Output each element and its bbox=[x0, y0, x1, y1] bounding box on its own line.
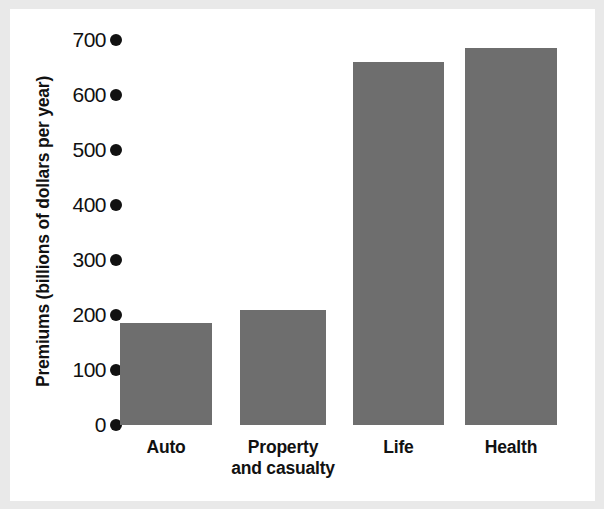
bar-life bbox=[353, 62, 444, 425]
y-axis-tick-label: 100 bbox=[36, 358, 106, 382]
plot-area: 0100200300400500600700AutoPropertyand ca… bbox=[10, 9, 595, 501]
y-axis-tick-dot-icon bbox=[110, 89, 122, 101]
y-axis-tick-dot-icon bbox=[110, 309, 122, 321]
y-axis-tick-label: 600 bbox=[36, 83, 106, 107]
y-axis-tick-dot-icon bbox=[110, 254, 122, 266]
bar-auto bbox=[120, 323, 212, 425]
y-axis-tick-dot-icon bbox=[110, 144, 122, 156]
bar-property-and-casualty bbox=[240, 310, 326, 426]
figure-root: Premiums (billions of dollars per year) … bbox=[0, 0, 604, 509]
x-axis-label-line: and casualty bbox=[200, 458, 366, 479]
x-axis-label-line: Health bbox=[425, 437, 597, 458]
chart-card: Premiums (billions of dollars per year) … bbox=[10, 9, 595, 501]
y-axis-tick-dot-icon bbox=[110, 34, 122, 46]
y-axis-tick-label: 400 bbox=[36, 193, 106, 217]
bar-health bbox=[465, 48, 557, 425]
x-axis-label-health: Health bbox=[425, 437, 597, 458]
y-axis-tick-label: 700 bbox=[36, 28, 106, 52]
y-axis-tick-dot-icon bbox=[110, 199, 122, 211]
y-axis-tick-label: 500 bbox=[36, 138, 106, 162]
y-axis-tick-label: 300 bbox=[36, 248, 106, 272]
y-axis-tick-label: 200 bbox=[36, 303, 106, 327]
y-axis-tick-label: 0 bbox=[36, 413, 106, 437]
